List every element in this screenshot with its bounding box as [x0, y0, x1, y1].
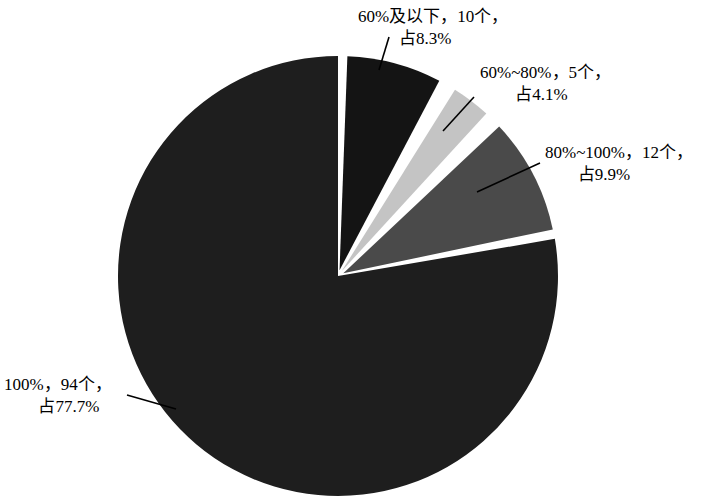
pie-label-100-line2: 占77.7% — [4, 396, 112, 418]
pie-label-60-to-80: 60%~80%，5个， 占4.1% — [480, 62, 611, 107]
pie-slice-100[interactable] — [118, 56, 558, 496]
pie-label-80-to-100: 80%~100%，12个， 占9.9% — [545, 142, 693, 187]
pie-chart: 60%及以下，10个， 占8.3% 60%~80%，5个， 占4.1% 80%~… — [0, 0, 716, 504]
pie-label-60-to-80-line1: 60%~80%，5个， — [480, 62, 611, 84]
pie-label-60-and-below-line2: 占8.3% — [358, 28, 508, 50]
pie-label-80-to-100-line1: 80%~100%，12个， — [545, 142, 693, 164]
pie-label-60-to-80-line2: 占4.1% — [480, 84, 611, 106]
pie-slices — [118, 56, 558, 496]
pie-label-100-line1: 100%，94个， — [4, 374, 112, 396]
pie-label-60-and-below-line1: 60%及以下，10个， — [358, 6, 508, 28]
pie-label-60-and-below: 60%及以下，10个， 占8.3% — [358, 6, 508, 51]
pie-label-80-to-100-line2: 占9.9% — [545, 164, 693, 186]
pie-label-100: 100%，94个， 占77.7% — [4, 374, 112, 419]
